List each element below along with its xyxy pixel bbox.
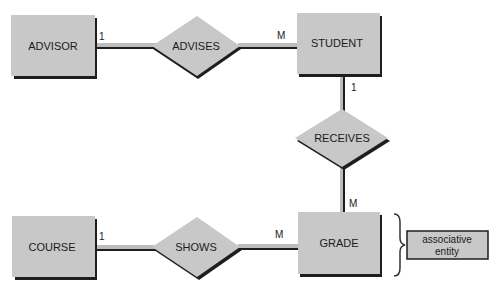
- annotation-associative-entity: associative entity: [407, 231, 488, 259]
- relationship-receives-label: RECEIVES: [314, 132, 370, 144]
- relationship-advises-label: ADVISES: [172, 40, 220, 52]
- entity-student-label: STUDENT: [311, 37, 363, 49]
- cardinality-advisor-advises: 1: [99, 31, 105, 42]
- brace-icon: [394, 214, 405, 276]
- cardinality-shows-grade: M: [275, 229, 283, 240]
- connector-shows-grade: [238, 244, 298, 250]
- cardinality-receives-grade: M: [349, 198, 357, 209]
- entity-advisor[interactable]: ADVISOR: [11, 15, 97, 79]
- entity-course[interactable]: COURSE: [12, 216, 97, 280]
- entity-advisor-label: ADVISOR: [28, 40, 78, 52]
- annotation-line2: entity: [435, 246, 459, 257]
- cardinality-advises-student: M: [277, 30, 285, 41]
- connector-student-receives: [340, 75, 345, 111]
- entity-grade[interactable]: GRADE: [298, 212, 382, 277]
- connector-advises-student: [238, 43, 298, 49]
- entity-course-label: COURSE: [28, 241, 75, 253]
- er-diagram: ADVISOR STUDENT COURSE GRADE ADVISES REC…: [0, 0, 499, 290]
- entity-student[interactable]: STUDENT: [297, 13, 382, 77]
- relationship-advises[interactable]: ADVISES: [152, 16, 241, 79]
- connector-advisor-advises: [95, 43, 157, 49]
- entity-grade-label: GRADE: [319, 237, 358, 249]
- connector-receives-grade: [340, 166, 345, 213]
- relationship-shows-label: SHOWS: [175, 241, 217, 253]
- relationship-receives[interactable]: RECEIVES: [295, 109, 390, 170]
- annotation-line1: associative: [422, 234, 472, 245]
- cardinality-course-shows: 1: [99, 231, 105, 242]
- relationship-shows[interactable]: SHOWS: [152, 217, 242, 280]
- cardinality-student-receives: 1: [351, 82, 357, 93]
- connector-course-shows: [95, 245, 157, 251]
